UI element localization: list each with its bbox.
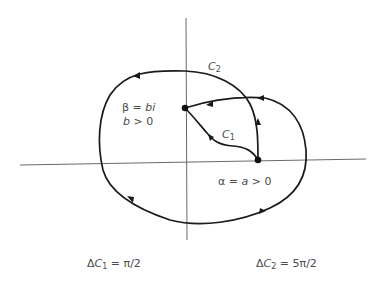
beta-equals: = — [129, 101, 145, 114]
point-alpha — [255, 157, 262, 164]
label-c1-sub: 1 — [230, 133, 235, 142]
beta-var: b — [123, 115, 130, 128]
real-axis — [20, 159, 366, 165]
label-c2-sub: 2 — [216, 65, 221, 74]
delta-c1-delta: Δ — [87, 257, 95, 270]
beta-cond: > 0 — [130, 115, 153, 128]
label-c1-main: C — [222, 128, 230, 141]
label-delta-c1: ΔC1 = π/2 — [87, 257, 141, 270]
label-delta-c2: ΔC2 = 5π/2 — [256, 257, 317, 270]
delta-c1-eq: = π/2 — [107, 257, 141, 270]
label-alpha-definition: α = a > 0 — [218, 175, 271, 188]
label-beta-definition: β = bi — [122, 101, 155, 114]
point-beta — [182, 105, 189, 112]
delta-c2-eq: = 5π/2 — [276, 257, 317, 270]
beta-value: bi — [145, 101, 155, 114]
label-c2-main: C — [208, 60, 216, 73]
delta-c2-delta: Δ — [256, 257, 264, 270]
alpha-equals: = — [225, 175, 241, 188]
arrow-c2-top-left-icon — [133, 72, 140, 79]
imaginary-axis — [186, 18, 187, 240]
contour-c2 — [99, 71, 306, 224]
beta-symbol: β — [122, 101, 129, 114]
label-c2: C2 — [208, 60, 221, 73]
label-beta-condition: b > 0 — [123, 115, 153, 128]
label-c1: C1 — [222, 128, 235, 141]
arrow-c2-top-right-icon — [257, 95, 264, 101]
alpha-cond: > 0 — [248, 175, 271, 188]
contour-diagram — [0, 0, 386, 282]
arrow-c2-bottom-right-icon — [259, 208, 266, 214]
